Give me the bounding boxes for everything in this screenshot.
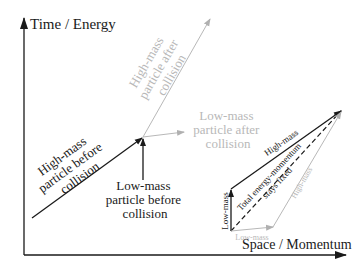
- inset-high-mass-after-label: High-mass: [289, 165, 314, 200]
- svg-text:High-mass particle aft: High-mass particle after collision: [123, 27, 195, 109]
- low-mass-before-label: Low-mass particle before collision: [106, 178, 185, 221]
- low-mass-after-label: Low-mass particle after collision: [193, 108, 262, 151]
- axes: Time / Energy Space / Momentum: [24, 16, 352, 255]
- inset-low-mass-after-label: Low-mass: [235, 233, 268, 242]
- low-mass-after-arrow: [143, 132, 184, 137]
- collision-worldlines: High-mass particle before collision Low-…: [27, 19, 263, 221]
- inset-low-mass-after: [231, 227, 273, 231]
- y-axis-label: Time / Energy: [30, 16, 116, 32]
- energy-momentum-diagram: Time / Energy Space / Momentum High-mass…: [0, 0, 363, 273]
- high-mass-after-label: High-mass particle after collision: [123, 27, 195, 109]
- inset-low-mass-before-label: Low-mass: [220, 192, 230, 230]
